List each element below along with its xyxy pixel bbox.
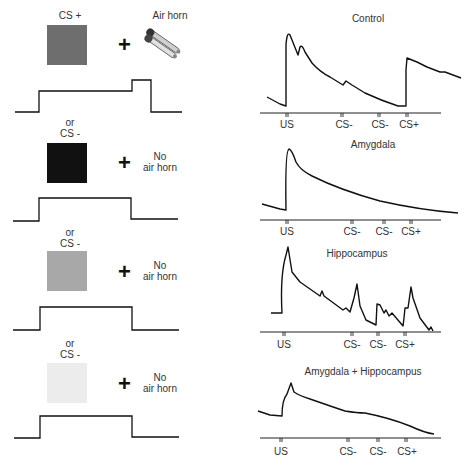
tick-label-cs-minus: CS-	[369, 446, 386, 457]
cs-minus-label: CS -	[50, 349, 90, 360]
tick-label-cs-minus: CS-	[343, 226, 360, 237]
tick-label-cs-minus: CS-	[343, 339, 360, 350]
no-label: No	[140, 260, 180, 271]
cs-minus-label: CS -	[50, 238, 90, 249]
plus-sign: +	[118, 152, 131, 174]
tick-label-us: US	[274, 446, 288, 457]
tick-label-cs-plus: CS+	[397, 446, 417, 457]
tick-label-us: US	[280, 119, 294, 130]
cs-plus-square	[47, 25, 87, 65]
curve-hippocampus	[271, 247, 433, 331]
tick-label-cs-minus: CS-	[375, 226, 392, 237]
tick-label-cs-minus: CS-	[335, 119, 352, 130]
plus-sign: +	[118, 34, 131, 56]
cs-minus-square-gray	[47, 251, 87, 291]
or-label: or	[50, 117, 90, 128]
tick-label-us: US	[277, 339, 291, 350]
tick-label-cs-minus: CS-	[369, 339, 386, 350]
plot-title-control: Control	[352, 13, 384, 24]
plot-title-hippocampus: Hippocampus	[326, 248, 387, 259]
plot-title-amygdala-hippocampus: Amygdala + Hippocampus	[304, 366, 421, 377]
air-horn-label: air horn	[140, 271, 180, 282]
curve-amygdala-hippocampus	[258, 383, 434, 434]
or-label: or	[50, 338, 90, 349]
tick-label-us: US	[280, 226, 294, 237]
plus-sign: +	[118, 261, 131, 283]
tick-label-cs-plus: CS+	[399, 119, 419, 130]
cs-minus-label: CS -	[50, 128, 90, 139]
no-label: No	[140, 372, 180, 383]
air-horn-label: air horn	[140, 383, 180, 394]
tick-label-cs-minus: CS-	[371, 119, 388, 130]
waveform-cs-minus	[13, 198, 178, 221]
tick-label-cs-plus: CS+	[395, 339, 415, 350]
cs-plus-label: CS +	[50, 10, 90, 21]
waveform-cs-minus	[13, 307, 179, 330]
tick-label-cs-plus: CS+	[401, 226, 421, 237]
cs-minus-square-light	[47, 363, 87, 403]
cs-minus-square-dark	[47, 143, 87, 183]
or-label: or	[50, 227, 90, 238]
waveform-cs-minus	[14, 416, 179, 438]
curve-amygdala	[262, 149, 458, 213]
curve-control	[267, 34, 461, 106]
plot-title-amygdala: Amygdala	[351, 139, 395, 150]
waveform-cs-plus	[15, 80, 182, 112]
air-horn-label: Air horn	[150, 10, 190, 21]
tick-label-cs-minus: CS-	[339, 446, 356, 457]
plus-sign: +	[118, 373, 131, 395]
air-horn-label: air horn	[140, 162, 180, 173]
no-label: No	[140, 151, 180, 162]
